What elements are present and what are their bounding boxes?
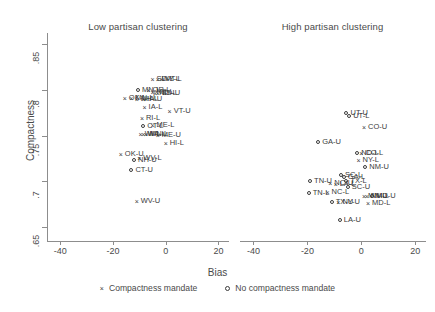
cross-marker-icon: × xyxy=(150,75,154,82)
circle-marker-icon xyxy=(307,191,311,195)
circle-marker-icon xyxy=(338,218,342,222)
circle-marker-icon xyxy=(132,158,136,162)
cross-marker-icon: × xyxy=(144,130,148,137)
data-point-label: SD-U xyxy=(162,89,180,97)
x-axis-tick-label: -40 xyxy=(45,246,75,256)
data-point-label: HI-L xyxy=(170,139,184,147)
data-point-label: NY-U xyxy=(342,198,360,206)
cross-marker-icon: × xyxy=(123,95,127,102)
y-axis-tick xyxy=(42,227,47,228)
y-axis-tick-label: .75 xyxy=(31,135,41,165)
circle-marker-icon xyxy=(129,168,133,172)
data-point-label: SC-U xyxy=(352,183,370,191)
y-axis-tick-label: .65 xyxy=(31,226,41,256)
circle-marker-icon xyxy=(347,114,351,118)
y-axis-tick xyxy=(42,136,47,137)
legend-label-no-compactness-mandate: No compactness mandate xyxy=(235,283,335,293)
x-axis-tick xyxy=(218,241,219,245)
cross-marker-icon: × xyxy=(150,121,154,128)
circle-marker-icon xyxy=(316,140,320,144)
x-axis-line-right-panel xyxy=(240,241,426,242)
data-point-label: NC-L xyxy=(332,188,350,196)
x-axis-tick xyxy=(361,241,362,245)
x-axis-tick xyxy=(60,241,61,245)
panel-title-high-partisan-clustering: High partisan clustering xyxy=(240,21,425,32)
cross-marker-icon: × xyxy=(135,95,139,102)
cross-marker-icon: × xyxy=(156,131,160,138)
x-axis-tick xyxy=(253,241,254,245)
panel-title-low-partisan-clustering: Low partisan clustering xyxy=(48,21,228,32)
cross-marker-icon: × xyxy=(362,124,366,131)
circle-marker-icon xyxy=(363,165,367,169)
data-point-label: MD-L xyxy=(372,199,390,207)
data-point-label: UT-L xyxy=(353,112,369,120)
circle-marker-icon xyxy=(225,286,230,291)
data-point-label: NM-U xyxy=(369,163,389,171)
cross-marker-icon: × xyxy=(357,157,361,164)
x-axis-tick-label: -20 xyxy=(98,246,128,256)
cross-marker-icon: × xyxy=(141,95,145,102)
y-axis-line xyxy=(47,33,48,241)
legend-item-compactness-mandate: × Compactness mandate xyxy=(100,283,197,293)
x-axis-tick xyxy=(415,241,416,245)
cross-marker-icon: × xyxy=(143,104,147,111)
data-point-label: LA-U xyxy=(344,216,361,224)
data-point-label: IA-L xyxy=(149,103,163,111)
circle-marker-icon xyxy=(136,88,140,92)
legend-label-compactness-mandate: Compactness mandate xyxy=(109,283,197,293)
x-axis-tick-label: 20 xyxy=(400,246,430,256)
y-axis-tick xyxy=(42,90,47,91)
cross-marker-icon: × xyxy=(160,75,164,82)
data-point-label: CO-U xyxy=(368,123,387,131)
y-axis-tick-label: .85 xyxy=(31,43,41,73)
cross-marker-icon: × xyxy=(129,95,133,102)
legend-item-no-compactness-mandate: No compactness mandate xyxy=(225,283,335,293)
x-axis-tick-label: -20 xyxy=(292,246,322,256)
x-axis-title: Bias xyxy=(0,267,435,278)
cross-marker-icon: × xyxy=(100,285,104,292)
cross-marker-icon: × xyxy=(135,197,139,204)
cross-marker-icon: × xyxy=(168,107,172,114)
x-axis-tick-label: 0 xyxy=(346,246,376,256)
data-point-label: ME-L xyxy=(157,121,175,129)
x-axis-tick-label: 0 xyxy=(151,246,181,256)
data-point-label: VT-L xyxy=(166,75,182,83)
x-axis-tick-label: -40 xyxy=(238,246,268,256)
cross-marker-icon: × xyxy=(336,198,340,205)
y-axis-tick xyxy=(42,181,47,182)
circle-marker-icon xyxy=(344,179,348,183)
data-point-label: VT-U xyxy=(174,107,191,115)
x-axis-tick xyxy=(113,241,114,245)
circle-marker-icon xyxy=(330,200,334,204)
cross-marker-icon: × xyxy=(164,139,168,146)
cross-marker-icon: × xyxy=(365,193,369,200)
x-axis-tick xyxy=(166,241,167,245)
cross-marker-icon: × xyxy=(119,150,123,157)
cross-marker-icon: × xyxy=(366,200,370,207)
cross-marker-icon: × xyxy=(326,189,330,196)
data-point-label: WV-L xyxy=(143,154,161,162)
cross-marker-icon: × xyxy=(328,180,332,187)
y-axis-tick xyxy=(42,44,47,45)
data-point-label: WV-U xyxy=(141,197,161,205)
chart-legend: × Compactness mandate No compactness man… xyxy=(0,283,435,293)
chart-figure: Low partisan clustering High partisan cl… xyxy=(0,0,435,312)
circle-marker-icon xyxy=(308,179,312,183)
y-axis-tick-label: .7 xyxy=(31,180,41,210)
x-axis-line-left-panel xyxy=(47,241,229,242)
data-point-label: CT-U xyxy=(135,166,153,174)
data-point-label: GA-U xyxy=(322,138,341,146)
x-axis-tick xyxy=(307,241,308,245)
cross-marker-icon: × xyxy=(140,115,144,122)
y-axis-tick-label: .8 xyxy=(31,89,41,119)
cross-marker-icon: × xyxy=(137,154,141,161)
x-axis-tick-label: 20 xyxy=(203,246,233,256)
